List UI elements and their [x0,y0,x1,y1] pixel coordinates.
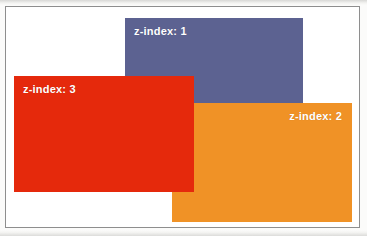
scan-edge-top [0,0,367,5]
scan-edge-bottom [0,230,367,236]
z-index-box-2[interactable]: z-index: 2 [172,103,352,222]
z-index-box-3-label: z-index: 3 [23,83,76,95]
scanned-page: z-index: 1 z-index: 2 z-index: 3 [0,0,367,236]
z-index-box-3[interactable]: z-index: 3 [14,76,194,192]
z-index-box-2-label: z-index: 2 [289,110,342,122]
z-index-box-1-label: z-index: 1 [134,25,187,37]
figure-frame: z-index: 1 z-index: 2 z-index: 3 [5,6,360,228]
